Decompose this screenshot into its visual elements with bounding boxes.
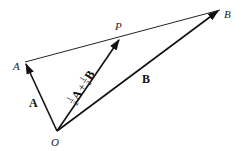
vector-diagram: A P B O A B 1 2 A + 1 2 B [0,0,245,151]
vector-label-b: B [142,72,150,86]
point-label-b: B [224,8,231,20]
vector-label-p: 1 2 A + 1 2 B [64,67,98,108]
vector-label-a: A [29,96,38,110]
point-label-o: O [51,136,59,148]
vector-b-arrow [57,11,218,131]
point-label-p: P [114,20,122,32]
point-label-a: A [12,60,20,72]
segment-a-b [25,10,220,62]
